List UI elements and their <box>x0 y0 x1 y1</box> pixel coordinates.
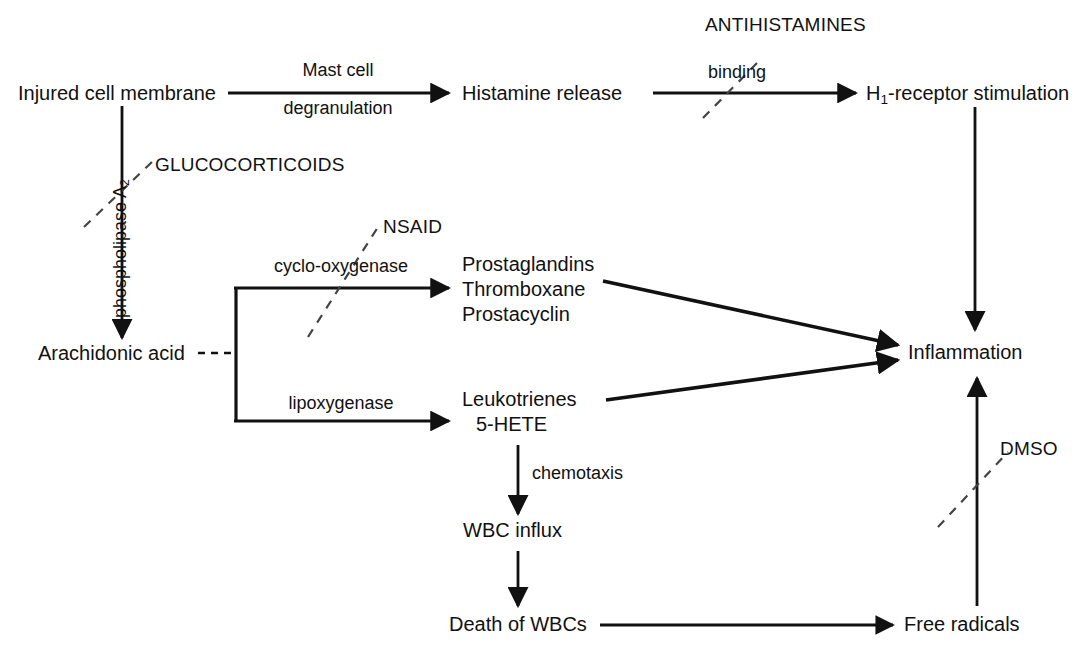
node-lipoxygenase-products: Leukotrienes 5-HETE <box>462 387 577 437</box>
drug-label-glucocorticoids: GLUCOCORTICOIDS <box>155 154 345 176</box>
node-leukotrienes: Leukotrienes <box>462 387 577 412</box>
h1-receptor-prefix: H <box>866 82 880 104</box>
node-free-radicals: Free radicals <box>904 612 1020 637</box>
edge-label-degranulation: degranulation <box>283 97 392 119</box>
node-death-of-wbcs: Death of WBCs <box>449 612 587 637</box>
edge-label-chemotaxis: chemotaxis <box>532 462 623 484</box>
drug-label-dmso: DMSO <box>1000 438 1058 460</box>
node-arachidonic-acid: Arachidonic acid <box>38 341 185 366</box>
node-injured-cell-membrane: Injured cell membrane <box>18 81 216 106</box>
arrow-leukotrienes-to-inflammation <box>606 360 898 400</box>
node-wbc-influx: WBC influx <box>463 518 562 543</box>
edge-label-binding: binding <box>708 61 766 83</box>
h1-receptor-subscript: 1 <box>880 92 888 107</box>
node-prostaglandins: Prostaglandins <box>462 252 594 277</box>
node-h1-receptor-stimulation: H1-receptor stimulation <box>866 81 1069 112</box>
pathway-diagram: Injured cell membrane Histamine release … <box>0 0 1088 653</box>
drug-label-antihistamines: ANTIHISTAMINES <box>705 14 866 36</box>
node-5-hete: 5-HETE <box>462 412 577 437</box>
inhibitor-line-dmso <box>938 452 1008 527</box>
phospholipase-subscript: 2 <box>118 179 132 186</box>
edge-label-mast-cell: Mast cell <box>302 59 373 81</box>
drug-label-nsaid: NSAID <box>383 216 442 238</box>
h1-receptor-suffix: -receptor stimulation <box>888 82 1069 104</box>
edge-label-cyclo-oxygenase: cyclo-oxygenase <box>274 255 408 277</box>
node-inflammation: Inflammation <box>908 340 1023 365</box>
inhibitor-line-nsaid <box>308 227 378 337</box>
edge-label-phospholipase-a2: phospholipase A2 <box>110 179 132 318</box>
phospholipase-text: phospholipase A <box>110 186 130 318</box>
node-cyclooxygenase-products: Prostaglandins Thromboxane Prostacyclin <box>462 252 594 327</box>
node-histamine-release: Histamine release <box>462 81 622 106</box>
arrow-prostaglandins-to-inflammation <box>603 281 898 345</box>
edge-label-lipoxygenase: lipoxygenase <box>288 392 393 414</box>
node-thromboxane: Thromboxane <box>462 277 594 302</box>
node-prostacyclin: Prostacyclin <box>462 302 594 327</box>
